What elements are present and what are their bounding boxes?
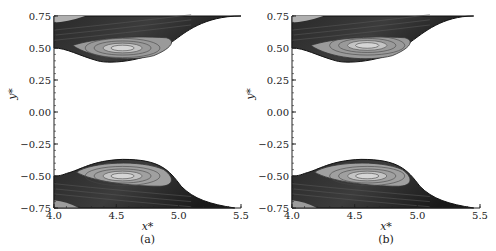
upper-streamline bbox=[356, 43, 379, 49]
x-tick-label: 4.0 bbox=[46, 210, 62, 221]
x-axis-label: x* bbox=[380, 220, 392, 233]
y-tick-label: 0.25 bbox=[267, 75, 289, 86]
y-tick-label: 0.25 bbox=[29, 75, 51, 86]
x-tick-label: 4.0 bbox=[284, 210, 300, 221]
panel-b: 0.750.500.250.00−0.25−0.50−0.754.04.55.0… bbox=[244, 11, 488, 247]
upper-streamline bbox=[111, 45, 134, 51]
x-tick-label: 4.5 bbox=[347, 210, 363, 221]
x-tick-label: 5.5 bbox=[472, 210, 488, 221]
y-tick-label: −0.25 bbox=[258, 139, 289, 150]
y-tick-label: −0.50 bbox=[20, 171, 51, 182]
y-axis-label: y* bbox=[6, 88, 19, 101]
y-tick-label: 0.75 bbox=[29, 11, 51, 22]
y-tick-label: 0.75 bbox=[267, 11, 289, 22]
panel-label: (a) bbox=[140, 233, 155, 246]
panel-label: (b) bbox=[378, 233, 394, 246]
x-tick-label: 5.5 bbox=[233, 210, 249, 221]
x-tick-label: 5.0 bbox=[409, 210, 425, 221]
y-tick-label: −0.50 bbox=[258, 171, 289, 182]
y-tick-label: 0.50 bbox=[29, 43, 51, 54]
x-tick-label: 5.0 bbox=[171, 210, 187, 221]
y-axis-label: y* bbox=[244, 88, 257, 101]
y-tick-label: 0.00 bbox=[267, 107, 289, 118]
figure: 0.750.500.250.00−0.25−0.50−0.754.04.55.0… bbox=[0, 0, 496, 251]
y-tick-label: 0.50 bbox=[267, 43, 289, 54]
lower-streamline bbox=[111, 173, 134, 179]
y-tick-label: 0.00 bbox=[29, 107, 51, 118]
y-tick-label: −0.25 bbox=[20, 139, 51, 150]
panel-a: 0.750.500.250.00−0.25−0.50−0.754.04.55.0… bbox=[6, 11, 249, 247]
x-axis-label: x* bbox=[142, 220, 154, 233]
x-tick-label: 4.5 bbox=[108, 210, 124, 221]
lower-streamline bbox=[356, 173, 379, 179]
